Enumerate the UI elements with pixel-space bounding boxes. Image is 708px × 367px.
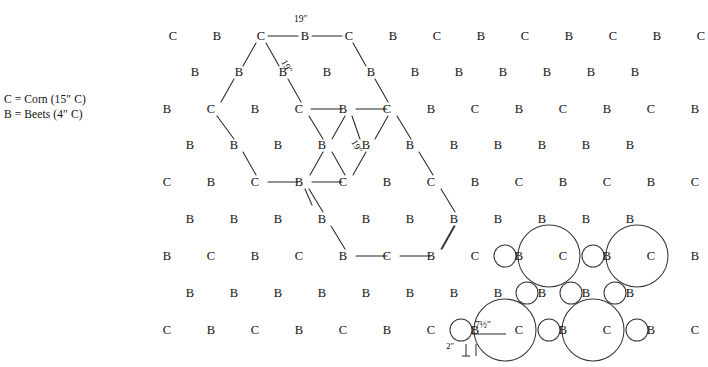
beet-plant-marker: B: [210, 30, 224, 43]
beet-plant-marker: B: [600, 250, 614, 263]
beet-plant-marker: B: [160, 250, 174, 263]
beet-plant-marker: B: [512, 103, 526, 116]
beet-plant-marker: B: [688, 103, 702, 116]
beet-plant-marker: B: [336, 250, 350, 263]
beet-plant-marker: B: [408, 66, 422, 79]
dim-beet-gap: 2″: [446, 341, 454, 351]
beet-plant-marker: B: [227, 139, 241, 152]
beet-plant-marker: B: [380, 176, 394, 189]
beet-plant-marker: B: [271, 139, 285, 152]
beet-plant-marker: B: [447, 139, 461, 152]
corn-plant-marker: C: [644, 103, 658, 116]
beet-plant-marker: B: [364, 66, 378, 79]
beet-plant-marker: B: [579, 287, 593, 300]
corn-plant-marker: C: [424, 324, 438, 337]
beet-plant-marker: B: [380, 324, 394, 337]
beet-plant-marker: B: [359, 213, 373, 226]
beet-plant-marker: B: [232, 66, 246, 79]
beet-plant-marker: B: [183, 139, 197, 152]
beet-plant-marker: B: [336, 103, 350, 116]
beet-plant-marker: B: [359, 287, 373, 300]
beet-plant-marker: B: [188, 66, 202, 79]
beet-plant-marker: B: [298, 30, 312, 43]
beet-plant-marker: B: [623, 139, 637, 152]
beet-plant-marker: B: [496, 66, 510, 79]
beet-plant-marker: B: [271, 213, 285, 226]
corn-plant-marker: C: [518, 30, 532, 43]
beet-plant-marker: B: [535, 287, 549, 300]
beet-plant-marker: B: [227, 213, 241, 226]
corn-plant-marker: C: [336, 324, 350, 337]
beet-plant-marker: B: [535, 213, 549, 226]
beet-plant-marker: B: [491, 213, 505, 226]
beet-plant-marker: B: [248, 103, 262, 116]
beet-plant-marker: B: [579, 213, 593, 226]
beet-plant-marker: B: [556, 324, 570, 337]
beet-plant-marker: B: [315, 213, 329, 226]
corn-plant-marker: C: [556, 103, 570, 116]
beet-plant-marker: B: [540, 66, 554, 79]
corn-plant-marker: C: [254, 30, 268, 43]
beet-plant-marker: B: [535, 139, 549, 152]
beet-plant-marker: B: [292, 176, 306, 189]
beet-plant-marker: B: [320, 66, 334, 79]
beet-plant-marker: B: [315, 139, 329, 152]
corn-plant-marker: C: [512, 324, 526, 337]
beet-plant-marker: B: [628, 66, 642, 79]
corn-plant-marker: C: [380, 103, 394, 116]
corn-plant-marker: C: [424, 176, 438, 189]
beet-plant-marker: B: [491, 287, 505, 300]
beet-plant-marker: B: [491, 139, 505, 152]
beet-plant-marker: B: [248, 250, 262, 263]
corn-plant-marker: C: [688, 324, 702, 337]
beet-plant-marker: B: [183, 287, 197, 300]
corn-plant-marker: C: [160, 176, 174, 189]
beet-plant-marker: B: [452, 66, 466, 79]
beet-plant-marker: B: [227, 287, 241, 300]
corn-plant-marker: C: [600, 176, 614, 189]
corn-plant-marker: C: [292, 250, 306, 263]
beet-plant-marker: B: [403, 213, 417, 226]
corn-plant-marker: C: [468, 103, 482, 116]
corn-plant-marker: C: [600, 324, 614, 337]
corn-plant-marker: C: [342, 30, 356, 43]
corn-plant-marker: C: [512, 176, 526, 189]
beet-plant-marker: B: [292, 324, 306, 337]
beet-plant-marker: B: [644, 324, 658, 337]
beet-plant-marker: B: [183, 213, 197, 226]
beet-plant-marker: B: [562, 30, 576, 43]
beet-plant-marker: B: [315, 287, 329, 300]
beet-plant-marker: B: [447, 287, 461, 300]
corn-plant-marker: C: [166, 30, 180, 43]
beet-plant-marker: B: [424, 103, 438, 116]
beet-plant-marker: B: [447, 213, 461, 226]
corn-plant-marker: C: [248, 176, 262, 189]
corn-plant-marker: C: [248, 324, 262, 337]
corn-plant-marker: C: [688, 176, 702, 189]
beet-plant-marker: B: [403, 139, 417, 152]
corn-plant-marker: C: [292, 103, 306, 116]
dim-top-span: 19″: [294, 14, 307, 24]
beet-plant-marker: B: [556, 176, 570, 189]
corn-plant-marker: C: [380, 250, 394, 263]
beet-plant-marker: B: [160, 103, 174, 116]
corn-plant-marker: C: [204, 103, 218, 116]
beet-plant-marker: B: [623, 213, 637, 226]
beet-plant-marker: B: [650, 30, 664, 43]
corn-plant-marker: C: [644, 250, 658, 263]
beet-plant-marker: B: [204, 176, 218, 189]
corn-plant-marker: C: [430, 30, 444, 43]
corn-plant-marker: C: [694, 30, 708, 43]
beet-plant-marker: B: [623, 287, 637, 300]
beet-plant-marker: B: [644, 176, 658, 189]
dim-corn-radius: 7½″: [475, 320, 491, 330]
beet-plant-marker: B: [512, 250, 526, 263]
beet-plant-marker: B: [424, 250, 438, 263]
corn-plant-marker: C: [204, 250, 218, 263]
beet-plant-marker: B: [386, 30, 400, 43]
beet-plant-marker: B: [474, 30, 488, 43]
beet-plant-marker: B: [600, 103, 614, 116]
beet-plant-marker: B: [204, 324, 218, 337]
